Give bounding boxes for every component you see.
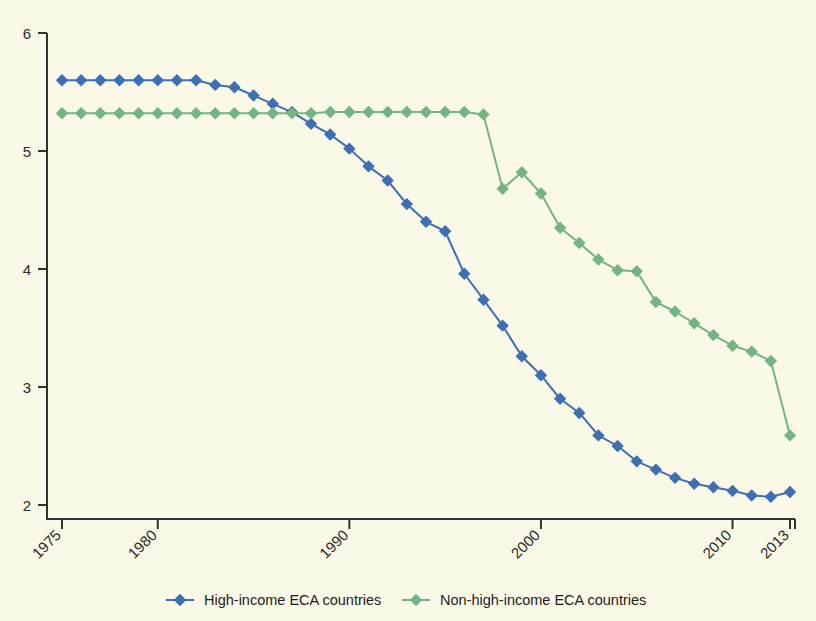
data-point-marker <box>228 107 240 119</box>
data-point-marker <box>247 107 259 119</box>
y-axis-tick-labels: 23456 <box>23 25 31 514</box>
data-point-marker <box>688 317 700 329</box>
data-point-marker <box>765 491 777 503</box>
data-point-marker <box>209 79 221 91</box>
data-point-marker <box>152 107 164 119</box>
y-axis-tick-label: 5 <box>23 143 31 160</box>
data-point-marker <box>439 225 451 237</box>
line-chart: 23456 197519801990200020102013 High-inco… <box>0 0 816 621</box>
chart-legend: High-income ECA countriesNon-high-income… <box>166 592 646 608</box>
data-point-marker <box>669 305 681 317</box>
data-point-marker <box>362 106 374 118</box>
data-point-marker <box>75 107 87 119</box>
data-point-marker <box>228 81 240 93</box>
data-point-marker <box>305 107 317 119</box>
y-axis-tick-label: 6 <box>23 25 31 42</box>
data-point-marker <box>247 89 259 101</box>
data-point-marker <box>611 264 623 276</box>
chart-series-high-income <box>56 74 796 503</box>
data-point-marker <box>152 74 164 86</box>
data-point-marker <box>381 106 393 118</box>
data-point-marker <box>113 107 125 119</box>
data-point-marker <box>132 74 144 86</box>
data-point-marker <box>458 106 470 118</box>
chart-series-group <box>56 74 796 503</box>
data-point-marker <box>113 74 125 86</box>
data-point-marker <box>650 296 662 308</box>
data-point-marker <box>75 74 87 86</box>
data-point-marker <box>784 486 796 498</box>
legend-label: High-income ECA countries <box>204 592 381 608</box>
data-point-marker <box>94 74 106 86</box>
x-axis-tick-label: 1975 <box>29 526 65 562</box>
data-point-marker <box>305 118 317 130</box>
data-point-marker <box>190 107 202 119</box>
x-axis-tick-label: 2013 <box>757 526 793 562</box>
y-axis-tick-label: 4 <box>23 261 31 278</box>
data-point-marker <box>745 345 757 357</box>
legend-marker-icon <box>174 594 186 606</box>
data-point-marker <box>650 463 662 475</box>
data-point-marker <box>745 489 757 501</box>
chart-series-non-high-income <box>56 106 796 442</box>
chart-axes <box>38 33 795 529</box>
data-point-marker <box>343 106 355 118</box>
data-point-marker <box>784 429 796 441</box>
data-point-marker <box>190 74 202 86</box>
data-point-marker <box>324 106 336 118</box>
data-point-marker <box>439 106 451 118</box>
legend-item-high-income[interactable]: High-income ECA countries <box>166 592 381 608</box>
data-point-marker <box>171 107 183 119</box>
x-axis-tick-label: 1990 <box>316 526 352 562</box>
legend-label: Non-high-income ECA countries <box>440 592 646 608</box>
chart-figure: 23456 197519801990200020102013 High-inco… <box>0 0 816 621</box>
data-point-marker <box>209 107 221 119</box>
data-point-marker <box>726 340 738 352</box>
data-point-marker <box>286 107 298 119</box>
data-point-marker <box>707 481 719 493</box>
data-point-marker <box>477 108 489 120</box>
y-axis-tick-label: 3 <box>23 379 31 396</box>
data-point-marker <box>765 355 777 367</box>
data-point-marker <box>631 265 643 277</box>
data-point-marker <box>132 107 144 119</box>
x-axis-tick-label: 2000 <box>507 526 543 562</box>
data-point-marker <box>94 107 106 119</box>
data-point-marker <box>56 107 68 119</box>
y-axis-tick-label: 2 <box>23 497 31 514</box>
data-point-marker <box>688 478 700 490</box>
x-axis-tick-label: 1980 <box>124 526 160 562</box>
data-point-marker <box>267 107 279 119</box>
data-point-marker <box>171 74 183 86</box>
x-axis-tick-label: 2010 <box>699 526 735 562</box>
data-point-marker <box>401 106 413 118</box>
data-point-marker <box>669 472 681 484</box>
legend-item-non-high-income[interactable]: Non-high-income ECA countries <box>402 592 646 608</box>
x-axis-tick-labels: 197519801990200020102013 <box>29 526 793 562</box>
data-point-marker <box>726 485 738 497</box>
data-point-marker <box>56 74 68 86</box>
legend-marker-icon <box>410 594 422 606</box>
data-point-marker <box>420 106 432 118</box>
data-point-marker <box>707 329 719 341</box>
